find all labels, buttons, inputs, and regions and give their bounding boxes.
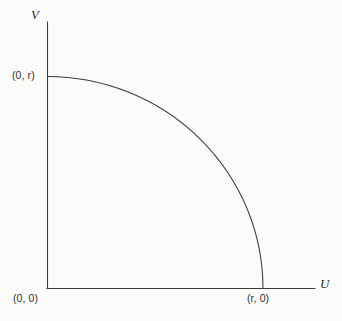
y-intercept-label: (0, r) [12, 70, 35, 81]
x-intercept-label: (r, 0) [247, 293, 269, 304]
origin-label: (0, 0) [13, 293, 38, 304]
quarter-circle-figure: V U (0, r) (0, 0) (r, 0) [0, 0, 342, 321]
plot-canvas [0, 0, 342, 321]
u-axis-label: U [320, 277, 330, 290]
quarter-circle-arc [48, 77, 264, 289]
v-axis-label: V [31, 8, 39, 21]
